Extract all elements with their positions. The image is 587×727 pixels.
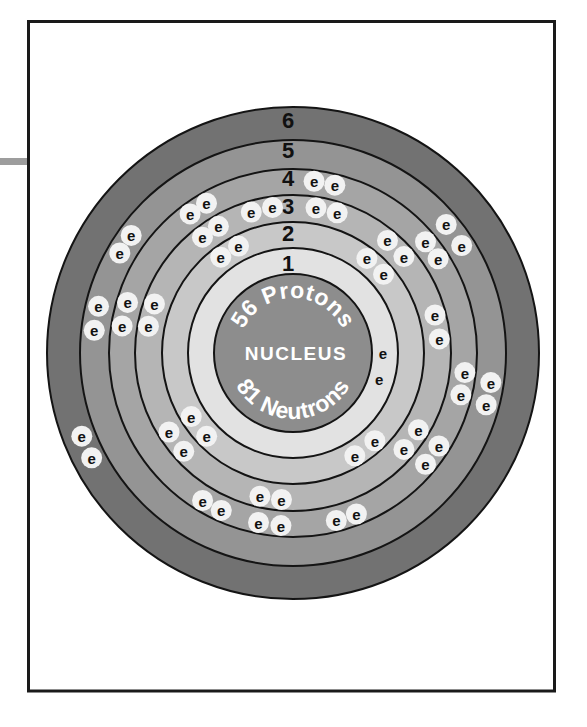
electron-shell-2: e (196, 426, 217, 447)
electron-symbol: e (187, 409, 195, 426)
electron-shell-4: e (211, 500, 232, 521)
electron-shell-3: e (393, 246, 414, 267)
electron-symbol: e (310, 173, 318, 190)
shell-number-label-2: 2 (282, 221, 294, 246)
electron-symbol: e (371, 433, 379, 450)
electron-shell-3: e (327, 202, 348, 223)
electron-shell-4: e (326, 510, 347, 531)
electron-symbol: e (487, 375, 495, 392)
electron-shell-2: e (181, 406, 202, 427)
electron-shell-3: e (208, 216, 229, 237)
electron-shell-3: e (408, 419, 429, 440)
shell-number-label-3: 3 (282, 194, 294, 219)
electron-symbol: e (482, 397, 490, 414)
electron-symbol: e (150, 296, 158, 313)
electron-shell-4: e (428, 435, 449, 456)
electron-symbol: e (351, 448, 359, 465)
electron-symbol: e (414, 422, 422, 439)
electron-shell-4: e (117, 292, 138, 313)
electron-symbol: e (78, 428, 86, 445)
nucleus-label: NUCLEUS (245, 343, 347, 364)
electron-shell-1: e (375, 371, 383, 388)
electron-shell-5: e (476, 394, 497, 415)
electron-symbol: e (214, 218, 222, 235)
electron-shell-4: e (304, 171, 325, 192)
electron-symbol: e (217, 502, 225, 519)
electron-shell-2: e (373, 264, 394, 285)
electron-shell-5: e (84, 320, 105, 341)
electron-symbol: e (332, 512, 340, 529)
electron-shell-3: e (305, 197, 326, 218)
electron-shell-3: e (144, 293, 165, 314)
electron-symbol: e (268, 199, 276, 216)
electron-symbol: e (94, 298, 102, 315)
electron-shell-5: e (88, 296, 109, 317)
electron-symbol: e (435, 438, 443, 455)
electron-symbol: e (247, 204, 255, 221)
electron-shell-4: e (415, 231, 436, 252)
page: 123456 eeeeeeeeeeeeeeeeeeeeeeeeeeeeeeeee… (0, 0, 587, 727)
margin-tab (0, 158, 30, 165)
electron-symbol: e (379, 345, 387, 362)
electron-symbol: e (144, 318, 152, 335)
electron-shell-3: e (262, 197, 283, 218)
electron-symbol: e (118, 318, 126, 335)
electron-shell-4: e (415, 454, 436, 475)
electron-shell-4: e (112, 315, 133, 336)
electron-shell-3: e (393, 439, 414, 460)
electron-shell-5: e (480, 372, 501, 393)
electron-symbol: e (431, 307, 439, 324)
electron-shell-3: e (138, 316, 159, 337)
shell-number-label-1: 1 (282, 251, 294, 276)
electron-symbol: e (234, 238, 242, 255)
electron-shell-4: e (454, 362, 475, 383)
shell-number-label-4: 4 (282, 166, 295, 191)
electron-shell-1: e (379, 345, 387, 362)
electron-symbol: e (333, 205, 341, 222)
electron-symbol: e (127, 227, 135, 244)
electron-shell-2: e (344, 445, 365, 466)
electron-shell-3: e (173, 441, 194, 462)
electron-symbol: e (379, 266, 387, 283)
electron-shell-6: e (71, 426, 92, 447)
electron-symbol: e (434, 251, 442, 268)
electron-shell-2: e (356, 248, 377, 269)
electron-shell-5: e (109, 243, 130, 264)
electron-shell-6: e (81, 447, 102, 468)
shell-number-label-5: 5 (282, 138, 294, 163)
electron-symbol: e (116, 245, 124, 262)
electron-shell-5: e (121, 225, 142, 246)
electron-symbol: e (400, 249, 408, 266)
electron-symbol: e (312, 200, 320, 217)
electron-shell-4: e (428, 248, 449, 269)
electron-shell-3: e (429, 328, 450, 349)
electron-shell-4: e (450, 384, 471, 405)
electron-symbol: e (331, 177, 339, 194)
shell-number-label-6: 6 (282, 108, 294, 133)
electron-symbol: e (352, 506, 360, 523)
electron-shell-4: e (270, 515, 291, 536)
electron-symbol: e (363, 250, 371, 267)
electron-symbol: e (442, 216, 450, 233)
electron-shell-4: e (248, 512, 269, 533)
electron-symbol: e (198, 493, 206, 510)
electron-shell-3: e (424, 304, 445, 325)
electron-symbol: e (180, 443, 188, 460)
electron-shell-4: e (346, 503, 367, 524)
electron-symbol: e (461, 365, 469, 382)
electron-shell-3: e (271, 489, 292, 510)
electron-shell-4: e (196, 193, 217, 214)
electron-shell-3: e (377, 230, 398, 251)
electron-symbol: e (375, 371, 383, 388)
electron-symbol: e (435, 331, 443, 348)
electron-symbol: e (277, 518, 285, 535)
electron-symbol: e (400, 441, 408, 458)
electron-symbol: e (458, 238, 466, 255)
electron-shell-2: e (210, 247, 231, 268)
electron-shell-5: e (436, 214, 457, 235)
electron-symbol: e (87, 450, 95, 467)
electron-symbol: e (123, 294, 131, 311)
electron-shell-2: e (364, 430, 385, 451)
bohr-model-figure: 123456 eeeeeeeeeeeeeeeeeeeeeeeeeeeeeeeee… (0, 0, 587, 727)
electron-shell-3: e (249, 486, 270, 507)
